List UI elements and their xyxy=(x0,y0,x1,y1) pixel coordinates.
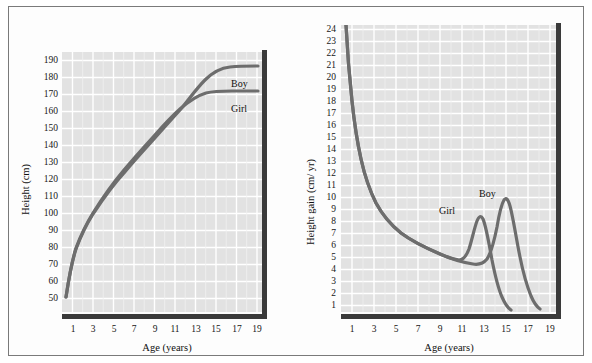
right-xtick-17: 17 xyxy=(518,325,538,335)
right-ytick-17: 17 xyxy=(308,109,336,119)
left-xtick-5: 5 xyxy=(104,325,124,335)
left-label-boy: Boy xyxy=(231,78,248,89)
right-ytick-2: 2 xyxy=(308,289,336,299)
left-ytick-80: 80 xyxy=(24,243,58,253)
left-ytick-90: 90 xyxy=(24,226,58,236)
left-curve-girl xyxy=(66,91,258,297)
right-xtick-15: 15 xyxy=(496,325,516,335)
right-ytick-1: 1 xyxy=(308,301,336,311)
right-label-boy: Boy xyxy=(479,188,496,199)
left-xtick-7: 7 xyxy=(124,325,144,335)
left-xtick-19: 19 xyxy=(247,325,267,335)
right-ytick-16: 16 xyxy=(308,121,336,131)
right-ytick-22: 22 xyxy=(308,49,336,59)
right-ytick-24: 24 xyxy=(308,25,336,35)
right-axis-bottom xyxy=(341,314,561,319)
right-xtick-3: 3 xyxy=(364,325,384,335)
left-curve-boy xyxy=(66,66,258,297)
right-plot-area xyxy=(341,25,556,312)
right-ytick-21: 21 xyxy=(308,61,336,71)
left-xtick-9: 9 xyxy=(145,325,165,335)
left-plot-background xyxy=(62,52,262,312)
left-ytick-180: 180 xyxy=(24,73,58,83)
left-ytick-150: 150 xyxy=(24,124,58,134)
right-xtick-7: 7 xyxy=(408,325,428,335)
left-axis-right xyxy=(262,50,267,316)
right-xtick-19: 19 xyxy=(540,325,560,335)
right-ytick-15: 15 xyxy=(308,133,336,143)
left-ytick-50: 50 xyxy=(24,294,58,304)
right-curve-girl xyxy=(346,25,511,310)
right-xtick-1: 1 xyxy=(342,325,362,335)
right-ytick-20: 20 xyxy=(308,73,336,83)
right-xtick-9: 9 xyxy=(430,325,450,335)
left-ytick-160: 160 xyxy=(24,107,58,117)
right-xaxis-title: Age (years) xyxy=(384,342,514,353)
left-ytick-70: 70 xyxy=(24,260,58,270)
right-ytick-23: 23 xyxy=(308,37,336,47)
right-ytick-19: 19 xyxy=(308,85,336,95)
right-ytick-5: 5 xyxy=(308,253,336,263)
left-xtick-13: 13 xyxy=(186,325,206,335)
right-ytick-18: 18 xyxy=(308,97,336,107)
right-curve-boy xyxy=(346,25,540,309)
right-xtick-5: 5 xyxy=(386,325,406,335)
right-label-girl: Girl xyxy=(439,205,455,216)
left-ytick-140: 140 xyxy=(24,141,58,151)
right-plot-svg xyxy=(341,25,556,312)
left-plot-area xyxy=(62,52,262,312)
left-ytick-60: 60 xyxy=(24,277,58,287)
left-axis-bottom xyxy=(62,314,267,319)
left-xtick-11: 11 xyxy=(165,325,185,335)
figure-root: 190 180 170 160 150 140 130 120 110 100 … xyxy=(0,0,592,363)
left-xtick-15: 15 xyxy=(206,325,226,335)
chart-panel-height-gain: 24 23 22 21 20 19 18 17 16 15 14 13 12 1… xyxy=(296,0,592,363)
left-yaxis-title: Height (cm) xyxy=(20,164,31,215)
right-axis-right xyxy=(556,23,561,316)
left-xtick-17: 17 xyxy=(227,325,247,335)
right-xtick-11: 11 xyxy=(452,325,472,335)
right-yaxis-title: Height gain (cm/ yr) xyxy=(305,159,316,245)
left-xtick-3: 3 xyxy=(83,325,103,335)
chart-panel-height: 190 180 170 160 150 140 130 120 110 100 … xyxy=(0,0,296,363)
left-xaxis-title: Age (years) xyxy=(102,342,232,353)
right-plot-background xyxy=(341,25,556,312)
left-ytick-170: 170 xyxy=(24,90,58,100)
left-label-girl: Girl xyxy=(231,103,247,114)
left-xtick-1: 1 xyxy=(63,325,83,335)
right-ytick-14: 14 xyxy=(308,145,336,155)
left-ytick-190: 190 xyxy=(24,56,58,66)
left-plot-svg xyxy=(62,52,262,312)
right-xtick-13: 13 xyxy=(474,325,494,335)
right-ytick-4: 4 xyxy=(308,265,336,275)
right-ytick-3: 3 xyxy=(308,277,336,287)
